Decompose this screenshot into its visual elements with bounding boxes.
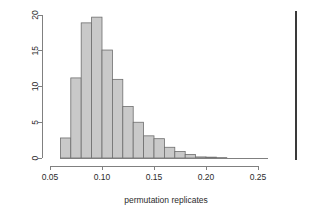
x-axis-tick-label: 0.25	[250, 172, 267, 182]
x-axis-tick-label: 0.15	[146, 172, 163, 182]
y-axis-tick-label: 5	[30, 120, 40, 125]
histogram-bar	[60, 138, 70, 158]
histogram-bar	[92, 17, 102, 158]
x-axis-tick-label: 0.20	[198, 172, 215, 182]
y-axis-tick-label: 0	[30, 155, 40, 160]
histogram-bar	[71, 78, 81, 158]
histogram-bar	[185, 154, 195, 158]
histogram-bar	[154, 139, 164, 158]
x-axis: 0.050.100.150.200.25	[42, 158, 269, 182]
histogram-bars	[60, 17, 226, 158]
x-axis-title: permutation replicates	[124, 195, 208, 205]
histogram-bar	[164, 147, 174, 158]
x-axis-tick-label: 0.10	[94, 172, 111, 182]
histogram-plot: 05101520 0.050.100.150.200.25 permutatio…	[0, 0, 332, 215]
histogram-bar	[123, 107, 133, 158]
histogram-bar	[81, 23, 91, 158]
histogram-bar	[175, 152, 185, 158]
y-axis-tick-label: 20	[30, 10, 40, 20]
y-axis-tick-label: 15	[30, 46, 40, 56]
histogram-bar	[144, 136, 154, 158]
histogram-bar	[102, 50, 112, 158]
histogram-bar	[133, 122, 143, 158]
x-axis-tick-label: 0.05	[42, 172, 59, 182]
histogram-bar	[112, 79, 122, 158]
plot-canvas: 05101520 0.050.100.150.200.25 permutatio…	[0, 0, 332, 215]
y-axis: 05101520	[30, 10, 42, 160]
y-axis-tick-label: 10	[30, 82, 40, 92]
